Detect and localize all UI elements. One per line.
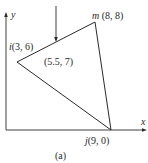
node-j-coords: (9, 0) <box>88 135 110 146</box>
diagram-graphics <box>0 0 148 163</box>
x-axis-arrow-icon <box>142 128 147 131</box>
x-axis-label: x <box>141 117 145 127</box>
triangle-element-diagram: y m (8, 8) i(3, 6) (5.5, 7) x j(9, 0) (a… <box>0 0 148 163</box>
node-i-coords: (3, 6) <box>12 41 34 52</box>
node-m-coords: (8, 8) <box>102 10 124 21</box>
triangle-element <box>17 22 111 130</box>
y-axis-arrow-icon <box>4 12 8 17</box>
node-j-label: j(9, 0) <box>85 136 109 146</box>
node-m-label: m (8, 8) <box>92 11 123 21</box>
figure-caption: (a) <box>55 151 66 161</box>
node-i-label: i(3, 6) <box>9 42 33 52</box>
y-axis-label: y <box>11 10 15 20</box>
load-point-label: (5.5, 7) <box>44 57 73 67</box>
node-m-name: m <box>92 10 99 21</box>
